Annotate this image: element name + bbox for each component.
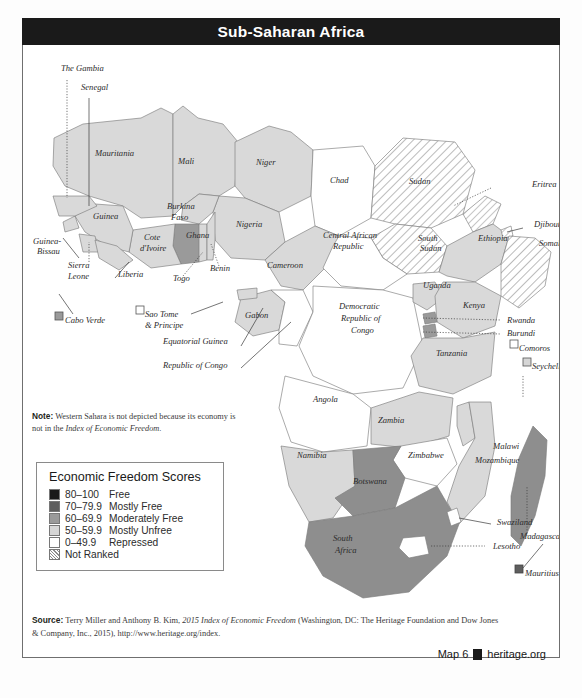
legend-swatch [49, 537, 60, 548]
country-label: South [333, 533, 353, 543]
country-label: Malawi [492, 441, 520, 451]
legend-range: 60–69.9 [65, 513, 109, 524]
figure-footer: Map 6 heritage.org [438, 648, 546, 660]
country-label: Faso [170, 212, 189, 222]
figure-title-bar: Sub-Saharan Africa [22, 18, 560, 45]
legend: Economic Freedom Scores 80–100Free70–79.… [36, 462, 224, 571]
country-label: Ghana [186, 230, 209, 240]
country-label: Burundi [507, 328, 536, 338]
legend-item: 70–79.9Mostly Free [49, 501, 213, 512]
country-label: Djibouti [533, 219, 559, 229]
source-text: Terry Miller and Anthony B. Kim, [63, 616, 182, 625]
country-label: Kenya [462, 300, 485, 310]
country-label: Lesotho [492, 541, 521, 551]
country-label: Zambia [378, 415, 404, 425]
legend-rows: 80–100Free70–79.9Mostly Free60–69.9Moder… [49, 489, 213, 560]
country-label: Niger [255, 157, 276, 167]
country-chad [311, 146, 375, 236]
country-equatorial-guinea [237, 288, 257, 300]
note-tail: . [159, 424, 161, 433]
legend-category: Mostly Unfree [109, 525, 172, 536]
legend-range: 70–79.9 [65, 501, 109, 512]
island-marker-comoros [510, 340, 518, 348]
note-italic: Index of Economic Freedom [65, 424, 159, 433]
country-label: Republic of [340, 313, 382, 323]
country-label: Cameroon [267, 260, 303, 270]
heritage-logo-icon [473, 649, 482, 660]
legend-category: Free [109, 489, 130, 500]
country-kenya [435, 282, 501, 338]
country-label: Mozambique [474, 455, 520, 465]
source-note: Source: Terry Miller and Anthony B. Kim,… [32, 614, 500, 640]
country-label: Cote [144, 232, 160, 242]
country-label: Mauritania [94, 148, 134, 158]
country-label: Seychelles [532, 361, 559, 371]
country-label: Liberia [117, 269, 143, 279]
legend-item: 50–59.9Mostly Unfree [49, 525, 213, 536]
page-title: Sub-Saharan Africa [218, 23, 365, 41]
source-label: Source: [32, 615, 63, 625]
country-label: Nigeria [235, 219, 262, 229]
country-label: Somalia [539, 238, 559, 248]
country-label: Botswana [353, 476, 387, 486]
country-label: Guinea- [33, 236, 61, 246]
island-marker-cabo-verde [55, 312, 63, 320]
country-label: Gabon [245, 310, 268, 320]
country-label: Bissau [37, 246, 60, 256]
country-label: South [418, 233, 438, 243]
country-label: Sudan [409, 176, 430, 186]
country-tanzania [411, 332, 495, 394]
source-italic: 2015 Index of Economic Freedom [182, 616, 296, 625]
legend-category: Not Ranked [65, 549, 119, 560]
country-label: Leone [67, 271, 89, 281]
country-burundi [423, 324, 437, 338]
legend-swatch [49, 549, 60, 560]
country-label: Namibia [296, 450, 327, 460]
country-label: Democratic [338, 301, 380, 311]
legend-item: Not Ranked [49, 549, 213, 560]
legend-swatch [49, 513, 60, 524]
legend-item: 0–49.9Repressed [49, 537, 213, 548]
country-label: Central African [323, 230, 377, 240]
legend-item: 80–100Free [49, 489, 213, 500]
country-label: d'Ivoire [140, 243, 167, 253]
legend-item: 60–69.9Moderately Free [49, 513, 213, 524]
country-label: Cabo Verde [65, 315, 105, 325]
country-label: Benin [210, 263, 230, 273]
legend-swatch [49, 501, 60, 512]
legend-category: Mostly Free [109, 501, 162, 512]
country-label: The Gambia [61, 63, 104, 73]
legend-range: 80–100 [65, 489, 109, 500]
heritage-site-label: heritage.org [487, 648, 546, 660]
island-marker-mauritius [515, 565, 523, 573]
country-label: Sierra [68, 260, 89, 270]
country-label: Tanzania [436, 348, 467, 358]
country-label: Congo [351, 325, 375, 335]
country-label: Republic of Congo [162, 360, 228, 370]
country-label: Swaziland [497, 517, 533, 527]
country-label: Angola [312, 394, 338, 404]
legend-heading: Economic Freedom Scores [49, 470, 213, 484]
country-label: Ethiopia [477, 233, 508, 243]
country-label: Mauritius [524, 568, 559, 578]
country-label: Madagascar [519, 531, 559, 541]
country-label: Guinea [93, 211, 118, 221]
country-label: Republic [332, 241, 364, 251]
country-label: Equatorial Guinea [162, 336, 228, 346]
island-marker-sao-tome [136, 306, 144, 314]
island-marker-seychelles [523, 358, 531, 366]
country-label: & Principe [145, 320, 184, 330]
country-label: Chad [330, 175, 349, 185]
country-label: Rwanda [506, 315, 535, 325]
legend-swatch [49, 489, 60, 500]
country-label: Africa [334, 545, 356, 555]
country-label: Zimbabwe [408, 450, 444, 460]
legend-category: Moderately Free [109, 513, 183, 524]
note-label: Note: [32, 411, 53, 421]
country-label: Uganda [423, 280, 451, 290]
map-number: Map 6 [438, 648, 469, 660]
country-label: Togo [173, 273, 191, 283]
country-label: Sao Tome [145, 309, 179, 319]
map-note: Note: Western Sahara is not depicted bec… [32, 410, 237, 435]
country-label: Burkina [167, 201, 195, 211]
